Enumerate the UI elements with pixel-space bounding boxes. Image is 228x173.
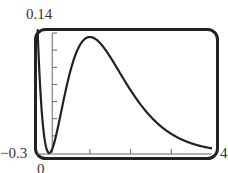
axes <box>37 33 212 154</box>
function-curve <box>37 30 212 153</box>
graph-window <box>0 0 228 173</box>
viewing-window-frame <box>36 30 218 159</box>
